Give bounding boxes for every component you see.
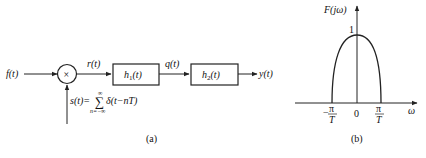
- svg-text:s(t)=: s(t)=: [70, 95, 90, 107]
- block-diagram-a: f(t) × s(t)= ∑ ∞ n=−∞ δ(t−nT) r(t) h1(t)…: [6, 58, 274, 145]
- input-label: f(t): [6, 68, 19, 80]
- svg-text:T: T: [376, 114, 383, 125]
- multiplier-icon: ×: [64, 69, 70, 80]
- sampling-function-label: s(t)= ∑ ∞ n=−∞ δ(t−nT): [70, 90, 138, 114]
- peak-value-label: 1: [349, 24, 354, 35]
- svg-text:δ(t−nT): δ(t−nT): [106, 95, 138, 107]
- y-axis-label: F(jω): [323, 4, 347, 16]
- product-label: r(t): [87, 58, 101, 70]
- output-label: y(t): [258, 68, 274, 80]
- svg-text:π: π: [376, 103, 381, 114]
- svg-text:∞: ∞: [98, 90, 103, 96]
- left-cutoff-label: − π T: [323, 103, 337, 125]
- spectrum-plot-b: F(jω) ω 1 0 − π T π T (b): [295, 4, 417, 145]
- x-axis-label: ω: [408, 105, 415, 116]
- origin-label: 0: [354, 108, 359, 119]
- caption-b: (b): [351, 133, 363, 145]
- intermediate-label: q(t): [165, 58, 180, 70]
- svg-text:n=−∞: n=−∞: [90, 108, 106, 114]
- svg-text:T: T: [329, 114, 336, 125]
- signal-system-figure: f(t) × s(t)= ∑ ∞ n=−∞ δ(t−nT) r(t) h1(t)…: [0, 0, 426, 158]
- summation-icon: ∑: [95, 94, 104, 109]
- caption-a: (a): [146, 133, 157, 145]
- svg-text:π: π: [329, 103, 334, 114]
- right-cutoff-label: π T: [375, 103, 384, 125]
